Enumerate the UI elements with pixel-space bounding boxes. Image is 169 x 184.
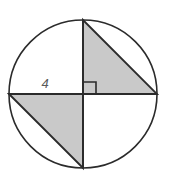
geometry-canvas: 4 xyxy=(0,0,169,184)
radius-length-label: 4 xyxy=(41,76,48,91)
geometry-figure: 4 xyxy=(0,0,169,184)
